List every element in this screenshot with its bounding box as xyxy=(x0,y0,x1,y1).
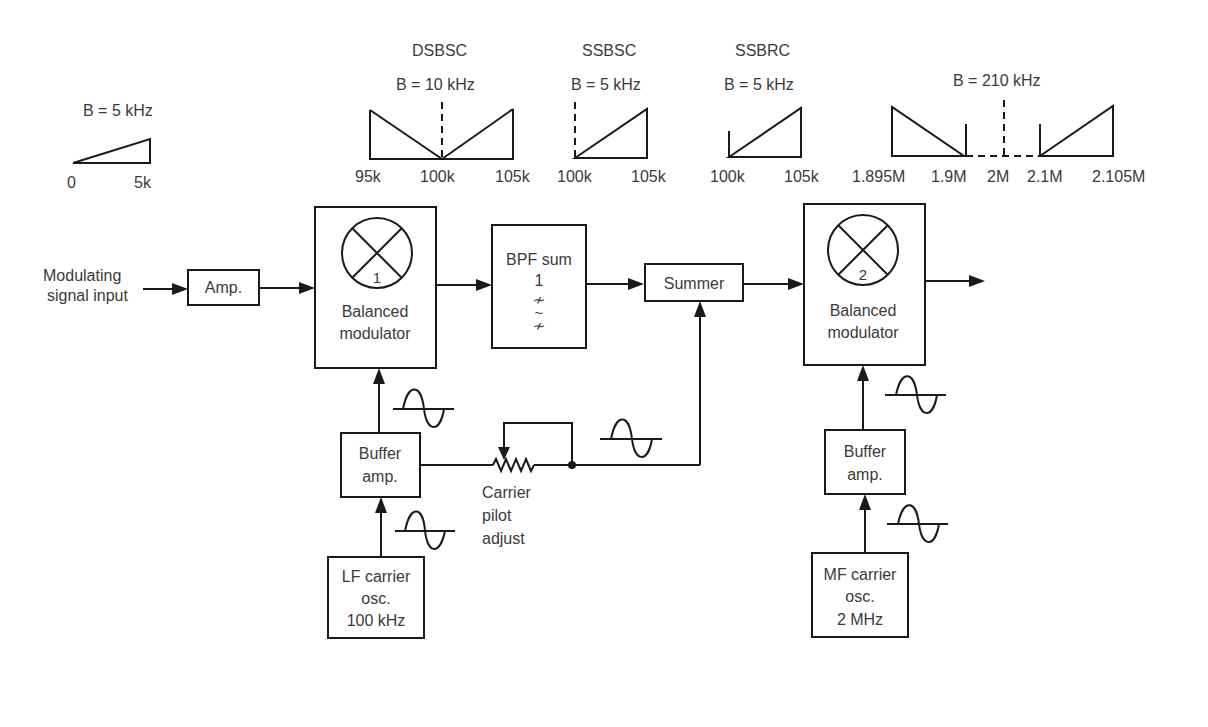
output-arrow xyxy=(969,275,985,287)
bm1-number: 1 xyxy=(373,269,381,286)
lf-osc-line2: osc. xyxy=(361,590,390,607)
ssbsc-tick-105k: 105k xyxy=(631,168,667,185)
spectrum-dsbsc: DSBSC B = 10 kHz 95k 100k 105k xyxy=(355,42,531,185)
dsbsc-title: DSBSC xyxy=(412,42,467,59)
ssbsc-tick-100k: 100k xyxy=(557,168,593,185)
buffer2-line1: Buffer xyxy=(844,443,887,460)
sine-wave-icon xyxy=(395,512,455,550)
ssbsc-title: SSBSC xyxy=(582,42,636,59)
amp-block: Amp. xyxy=(188,270,259,305)
bpf-symbol-3: ≁ xyxy=(533,317,546,334)
pilot-adjust-line3: adjust xyxy=(482,530,525,547)
summer-block: Summer xyxy=(645,264,743,301)
baseband-tick-5k: 5k xyxy=(134,174,152,191)
summer-label: Summer xyxy=(664,275,725,292)
pilot-adjust-line1: Carrier xyxy=(482,484,532,501)
mf-osc-line2: osc. xyxy=(845,588,874,605)
balanced-modulator-1: 1 Balanced modulator xyxy=(315,207,436,368)
spectrum-baseband: B = 5 kHz 0 5k xyxy=(67,102,153,191)
baseband-bandwidth: B = 5 kHz xyxy=(83,102,153,119)
ssbsc-bandwidth: B = 5 kHz xyxy=(571,76,641,93)
bm1-label-line1: Balanced xyxy=(342,303,409,320)
ssbrc-tick-100k: 100k xyxy=(710,168,746,185)
spectrum-ssbrc: SSBRC B = 5 kHz 100k 105k xyxy=(710,42,820,185)
input-label-line2: signal input xyxy=(47,287,129,304)
buffer-amp-1-block: Buffer amp. xyxy=(341,433,420,497)
ssb-transmitter-block-diagram: B = 5 kHz 0 5k DSBSC B = 10 kHz 95k 100k… xyxy=(0,0,1208,727)
sine-wave-icon xyxy=(887,505,948,542)
buffer1-line2: amp. xyxy=(362,468,398,485)
ssbrc-tick-105k: 105k xyxy=(784,168,820,185)
junction-dot xyxy=(568,461,576,469)
pilot-adjust-line2: pilot xyxy=(482,507,512,524)
sine-wave-icon xyxy=(885,376,946,413)
spectrum-ssbsc: SSBSC B = 5 kHz 100k 105k xyxy=(557,42,667,185)
mf-osc-line1: MF carrier xyxy=(824,566,898,583)
output-tick-21M: 2.1M xyxy=(1027,168,1063,185)
sine-wave-icon xyxy=(600,420,662,458)
sine-wave-icon xyxy=(393,390,454,428)
output-tick-2105M: 2.105M xyxy=(1092,168,1145,185)
mf-carrier-osc-block: MF carrier osc. 2 MHz xyxy=(812,553,908,637)
buffer-amp-2-block: Buffer amp. xyxy=(825,430,905,494)
lf-osc-line1: LF carrier xyxy=(342,568,411,585)
amp-label: Amp. xyxy=(205,279,242,296)
ssbrc-title: SSBRC xyxy=(735,42,790,59)
ssbrc-bandwidth: B = 5 kHz xyxy=(724,76,794,93)
output-tick-1895M: 1.895M xyxy=(852,168,905,185)
bm1-label-line2: modulator xyxy=(339,325,411,342)
input-label-line1: Modulating xyxy=(43,267,121,284)
bm2-label-line2: modulator xyxy=(827,324,899,341)
output-bandwidth: B = 210 kHz xyxy=(953,72,1041,89)
balanced-modulator-2: 2 Balanced modulator xyxy=(804,204,925,365)
output-tick-19M: 1.9M xyxy=(931,168,967,185)
dsbsc-tick-100k: 100k xyxy=(420,168,456,185)
lf-osc-line3: 100 kHz xyxy=(347,612,406,629)
bpf-sum-block: BPF sum 1 ≁ ~ ≁ xyxy=(492,225,586,348)
bm2-label-line1: Balanced xyxy=(830,302,897,319)
dsbsc-tick-105k: 105k xyxy=(495,168,531,185)
buffer2-line2: amp. xyxy=(847,466,883,483)
mf-osc-line3: 2 MHz xyxy=(837,611,883,628)
arrow-head xyxy=(172,283,188,295)
baseband-tick-0: 0 xyxy=(67,174,76,191)
bpf-label-line2: 1 xyxy=(535,272,544,289)
spectrum-output: B = 210 kHz 1.895M 1.9M 2M 2.1M 2.105M xyxy=(852,72,1145,185)
lf-carrier-osc-block: LF carrier osc. 100 kHz xyxy=(328,557,424,638)
potentiometer-icon xyxy=(493,459,534,471)
bpf-label-line1: BPF sum xyxy=(506,251,572,268)
buffer1-line1: Buffer xyxy=(359,445,402,462)
bm2-number: 2 xyxy=(859,266,867,283)
output-tick-2M: 2M xyxy=(987,168,1009,185)
dsbsc-bandwidth: B = 10 kHz xyxy=(396,76,475,93)
dsbsc-tick-95k: 95k xyxy=(355,168,382,185)
